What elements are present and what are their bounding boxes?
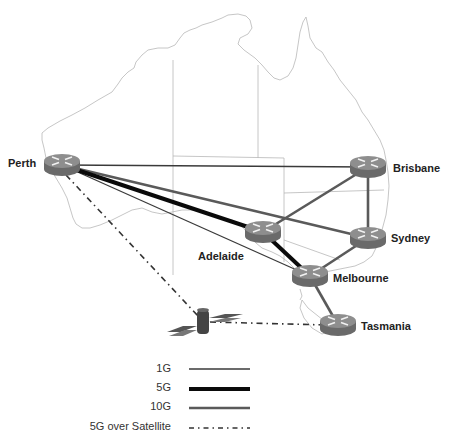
bass-strait-island (300, 289, 302, 300)
legend-label-satellite: 5G over Satellite (90, 420, 171, 432)
border-nt-sa (173, 156, 284, 158)
router-perth (44, 154, 80, 176)
label-brisbane: Brisbane (393, 162, 440, 174)
link-perth-sydney-10g (62, 165, 368, 238)
legend-label-5g: 5G (156, 381, 171, 393)
label-adelaide: Adelaide (198, 250, 244, 262)
router-adelaide (245, 221, 281, 243)
legend-label-1g: 1G (156, 362, 171, 374)
legend-label-10g: 10G (150, 400, 171, 412)
satellite-icon (167, 308, 243, 336)
label-sydney: Sydney (391, 232, 430, 244)
label-perth: Perth (8, 157, 36, 169)
link-adelaide-brisbane-10g (263, 167, 368, 232)
router-sydney (350, 227, 386, 249)
legend-lines (189, 369, 250, 428)
network-links (62, 165, 368, 325)
link-perth-melbourne-1g (62, 165, 310, 276)
router-tasmania (320, 314, 356, 336)
mainland-outline (42, 14, 389, 278)
router-melbourne (292, 265, 328, 287)
label-tasmania: Tasmania (361, 320, 411, 332)
label-melbourne: Melbourne (333, 272, 389, 284)
link-perth-adelaide-5g (62, 165, 263, 232)
link-perth-brisbane-1g (62, 165, 368, 167)
network-diagram (0, 0, 449, 438)
routers (44, 154, 386, 336)
router-brisbane (350, 156, 386, 178)
